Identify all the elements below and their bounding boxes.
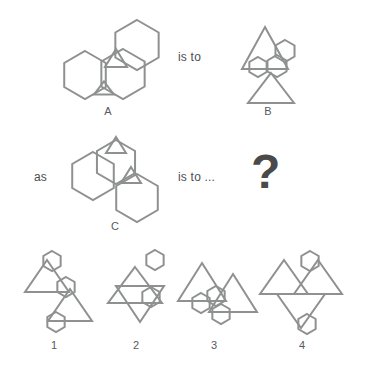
option-label-2[interactable]: 2 (133, 339, 139, 351)
option-label-4[interactable]: 4 (299, 339, 305, 351)
figure-label-b: B (264, 105, 272, 117)
triangle-shape (25, 260, 69, 292)
hexagon-shape (115, 20, 158, 70)
hexagon-shape (72, 152, 114, 200)
hexagon-shape (64, 51, 106, 99)
option-4-shapes[interactable] (260, 251, 342, 334)
hexagon-shape (249, 57, 266, 77)
hexagon-shape (301, 251, 318, 271)
figure-label-a: A (104, 105, 112, 117)
visual-analogy-puzzle: is to as is to ... ? A B C 1 2 3 4 (0, 0, 367, 368)
hexagon-shape (212, 304, 229, 324)
relation-text-as: as (34, 170, 47, 184)
figure-label-c: C (111, 220, 119, 232)
option-2-shapes[interactable] (108, 250, 164, 322)
figure-c-shapes (72, 137, 158, 222)
option-label-3[interactable]: 3 (211, 339, 217, 351)
relation-text-is-to-ellipsis: is to ... (178, 170, 215, 184)
figure-b-shapes (242, 27, 295, 103)
figure-a-shapes (64, 20, 158, 99)
triangle-shape (248, 73, 294, 103)
triangle-shape (277, 294, 325, 328)
hexagon-shape (101, 49, 144, 99)
option-label-1[interactable]: 1 (51, 339, 57, 351)
option-1-shapes[interactable] (25, 251, 92, 332)
hexagon-shape (298, 314, 315, 334)
option-3-shapes[interactable] (178, 263, 257, 324)
hexagon-shape (146, 250, 163, 270)
unknown-answer-question-mark: ? (251, 148, 280, 196)
relation-text-is-to: is to (178, 50, 201, 64)
